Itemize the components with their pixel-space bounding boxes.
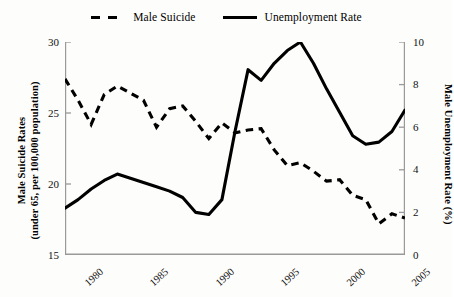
y-axis-right-tick-label: 8 <box>413 78 439 90</box>
y-axis-right-tick-label: 6 <box>413 121 439 133</box>
axis-spines <box>65 42 405 255</box>
y-axis-left-title-line1: Male Suicide Rates <box>16 81 29 241</box>
series-line-unemployment-rate <box>65 42 405 215</box>
plot-area <box>65 42 405 255</box>
x-axis-tick-label: 1980 <box>67 266 106 297</box>
y-axis-left-title: Male Suicide Rates (under 65, per 100,00… <box>16 81 41 241</box>
series-line-male-suicide <box>65 79 405 224</box>
chart-legend: Male Suicide Unemployment Rate <box>0 6 452 28</box>
legend-item-unemployment-rate: Unemployment Rate <box>222 11 362 23</box>
y-axis-left-tick-label: 20 <box>33 178 59 190</box>
y-axis-left-tick-label: 30 <box>33 36 59 48</box>
x-axis-tick-label: 2005 <box>394 266 433 297</box>
legend-label-male-suicide: Male Suicide <box>133 11 195 23</box>
x-axis-tick-label: 1995 <box>263 266 302 297</box>
x-axis-tick-label: 1990 <box>198 266 237 297</box>
y-axis-right-title: Male Unemployment Rate (%) <box>442 74 454 234</box>
y-axis-left-tick-label: 25 <box>33 107 59 119</box>
legend-label-unemployment-rate: Unemployment Rate <box>265 11 362 23</box>
x-axis-tick-label: 1985 <box>132 266 171 297</box>
y-axis-right-tick-label: 2 <box>413 206 439 218</box>
legend-item-male-suicide: Male Suicide <box>90 11 195 23</box>
x-axis-tick-label: 2000 <box>328 266 367 297</box>
y-axis-right-tick-label: 4 <box>413 163 439 175</box>
legend-swatch-dashed <box>90 12 126 23</box>
y-axis-right-tick-label: 0 <box>413 249 439 261</box>
y-axis-left-tick-label: 15 <box>33 249 59 261</box>
chart-canvas <box>65 42 405 255</box>
y-axis-right-tick-label: 10 <box>413 36 439 48</box>
y-axis-left-title-line2: (under 65, per 100,000 population) <box>28 81 41 241</box>
legend-swatch-solid <box>222 12 258 23</box>
